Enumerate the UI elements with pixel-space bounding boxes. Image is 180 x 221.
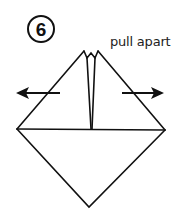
diagram-center-crease-right [92,58,95,129]
diagram-lower-triangle [17,129,165,207]
diagram-apex-flaps [84,51,98,58]
diagram-center-crease-left [87,58,91,129]
origami-fold-diagram [0,0,180,221]
arrow-right-icon [122,87,164,99]
arrow-left-icon [16,87,60,99]
